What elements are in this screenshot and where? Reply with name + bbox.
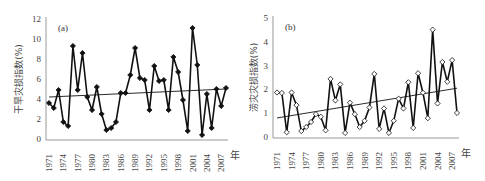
- data-point-marker: [199, 132, 204, 137]
- data-point-marker: [352, 112, 357, 117]
- y-tick-label: 4: [264, 37, 269, 47]
- x-axis-label: 年: [461, 147, 471, 159]
- x-tick-label: 2004: [433, 152, 443, 171]
- chart-b-plot: 012345涝灾灾损指数(%)(b)1971197419771980198319…: [240, 0, 485, 181]
- x-tick-label: 1983: [330, 152, 340, 171]
- data-point-marker: [152, 63, 157, 68]
- data-point-marker: [166, 107, 171, 112]
- data-point-marker: [185, 128, 190, 133]
- data-point-marker: [391, 118, 396, 123]
- x-tick-label: 2004: [202, 154, 212, 173]
- data-point-marker: [445, 79, 450, 84]
- x-tick-label: 2001: [418, 152, 428, 170]
- x-axis-label: 年: [230, 149, 240, 161]
- data-point-marker: [289, 90, 294, 95]
- y-tick-label: 6: [37, 74, 42, 84]
- data-point-marker: [80, 50, 85, 55]
- chart-a-plot: 024681012干旱灾损指数(%)(a)1971197419771980198…: [0, 0, 240, 181]
- data-point-marker: [430, 27, 435, 32]
- data-point-marker: [425, 116, 430, 121]
- x-tick-label: 1995: [159, 154, 169, 173]
- data-point-marker: [214, 86, 219, 91]
- data-point-marker: [89, 107, 94, 112]
- data-point-marker: [386, 130, 391, 135]
- data-point-marker: [450, 58, 455, 63]
- y-axis-label: 干旱灾损指数(%): [13, 44, 24, 114]
- data-point-marker: [343, 130, 348, 135]
- data-point-marker: [180, 97, 185, 102]
- data-point-marker: [209, 125, 214, 130]
- data-point-marker: [128, 72, 133, 77]
- y-tick-label: 2: [264, 84, 269, 94]
- data-point-marker: [56, 87, 61, 92]
- data-point-marker: [377, 126, 382, 131]
- data-point-marker: [294, 103, 299, 108]
- x-tick-label: 2001: [188, 154, 198, 172]
- x-tick-label: 1974: [287, 152, 297, 171]
- data-point-marker: [161, 77, 166, 82]
- x-tick-label: 1989: [360, 152, 370, 171]
- data-point-marker: [338, 82, 343, 87]
- x-tick-label: 1971: [272, 152, 282, 170]
- x-tick-label: 1980: [87, 154, 97, 173]
- y-tick-label: 5: [264, 13, 269, 23]
- x-tick-label: 1983: [101, 154, 111, 173]
- data-line: [49, 28, 226, 135]
- y-tick-label: 8: [37, 54, 42, 64]
- x-tick-label: 1998: [403, 152, 413, 171]
- data-point-marker: [396, 96, 401, 101]
- data-point-marker: [99, 111, 104, 116]
- data-point-marker: [133, 45, 138, 50]
- y-axis-label: 涝灾灾损指数(%): [248, 43, 259, 113]
- data-point-marker: [195, 62, 200, 67]
- data-point-marker: [333, 98, 338, 103]
- data-point-marker: [406, 80, 411, 85]
- data-point-marker: [372, 71, 377, 76]
- data-point-marker: [284, 130, 289, 135]
- x-tick-label: 1977: [73, 154, 83, 173]
- x-tick-label: 1980: [316, 152, 326, 171]
- data-point-marker: [279, 90, 284, 95]
- x-tick-label: 1989: [130, 154, 140, 173]
- data-point-marker: [75, 87, 80, 92]
- data-point-marker: [147, 107, 152, 112]
- x-tick-label: 1974: [58, 154, 68, 173]
- x-tick-label: 1992: [374, 152, 384, 170]
- x-tick-label: 1977: [301, 152, 311, 171]
- panel-label: (b): [285, 22, 296, 32]
- data-point-marker: [204, 91, 209, 96]
- data-point-marker: [94, 84, 99, 89]
- data-point-marker: [323, 128, 328, 133]
- x-tick-label: 1971: [44, 154, 54, 172]
- x-tick-label: 1986: [345, 152, 355, 171]
- chart-a-drought-index: 024681012干旱灾损指数(%)(a)1971197419771980198…: [0, 0, 240, 181]
- x-tick-label: 1995: [389, 152, 399, 171]
- data-point-marker: [367, 105, 372, 110]
- x-tick-label: 1992: [144, 154, 154, 172]
- y-tick-label: 10: [32, 34, 42, 44]
- data-point-marker: [454, 110, 459, 115]
- chart-b-flood-index: 012345涝灾灾损指数(%)(b)1971197419771980198319…: [240, 0, 485, 181]
- x-tick-label: 1986: [116, 154, 126, 173]
- data-point-marker: [401, 106, 406, 111]
- data-point-marker: [176, 69, 181, 74]
- data-point-marker: [415, 71, 420, 76]
- x-tick-label: 2007: [216, 154, 226, 173]
- data-point-marker: [156, 78, 161, 83]
- data-point-marker: [274, 90, 279, 95]
- y-tick-label: 1: [264, 108, 269, 118]
- data-point-marker: [328, 76, 333, 81]
- panel-label: (a): [58, 23, 68, 33]
- data-point-marker: [347, 100, 352, 105]
- x-tick-label: 1998: [173, 154, 183, 173]
- y-tick-label: 3: [264, 61, 269, 71]
- y-tick-label: 0: [37, 134, 42, 144]
- data-point-marker: [171, 54, 176, 59]
- data-point-marker: [190, 25, 195, 30]
- y-tick-label: 0: [264, 132, 269, 142]
- x-tick-label: 2007: [447, 152, 457, 171]
- data-point-marker: [70, 43, 75, 48]
- y-tick-label: 4: [37, 94, 42, 104]
- data-point-marker: [219, 103, 224, 108]
- data-point-marker: [381, 106, 386, 111]
